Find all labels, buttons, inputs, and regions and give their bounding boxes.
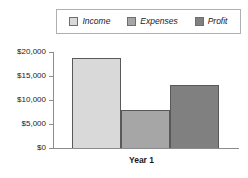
y-tick-mark-5000: [49, 124, 53, 125]
x-axis-line: [49, 148, 239, 149]
bar-chart: Income Expenses Profit $20,000 $15,000 $…: [0, 0, 248, 178]
legend-item-expenses[interactable]: Expenses: [127, 17, 177, 26]
legend-item-profit[interactable]: Profit: [195, 17, 228, 26]
y-tick-mark-10000: [49, 100, 53, 101]
legend-item-income[interactable]: Income: [69, 17, 110, 26]
y-tick-mark-20000: [49, 52, 53, 53]
bar-income[interactable]: [72, 58, 121, 148]
legend-swatch-expenses: [127, 17, 136, 26]
bar-group: [54, 52, 229, 148]
y-tick-label-5000: $5,000: [22, 120, 46, 128]
y-axis-tick-labels: $20,000 $15,000 $10,000 $5,000 $0: [0, 44, 48, 148]
legend-label-profit: Profit: [208, 17, 228, 26]
legend-swatch-income: [69, 17, 78, 26]
plot-area: $20,000 $15,000 $10,000 $5,000 $0 Year 1: [0, 44, 248, 178]
bar-expenses[interactable]: [121, 110, 170, 148]
y-tick-label-15000: $15,000: [17, 72, 46, 80]
legend-label-expenses: Expenses: [140, 17, 177, 26]
y-tick-label-20000: $20,000: [17, 48, 46, 56]
legend-swatch-profit: [195, 17, 204, 26]
y-tick-label-0: $0: [37, 144, 46, 152]
bar-profit[interactable]: [170, 85, 219, 148]
x-axis-title: Year 1: [54, 156, 229, 165]
chart-legend: Income Expenses Profit: [56, 9, 241, 34]
legend-label-income: Income: [82, 17, 110, 26]
y-tick-mark-15000: [49, 76, 53, 77]
y-tick-label-10000: $10,000: [17, 96, 46, 104]
